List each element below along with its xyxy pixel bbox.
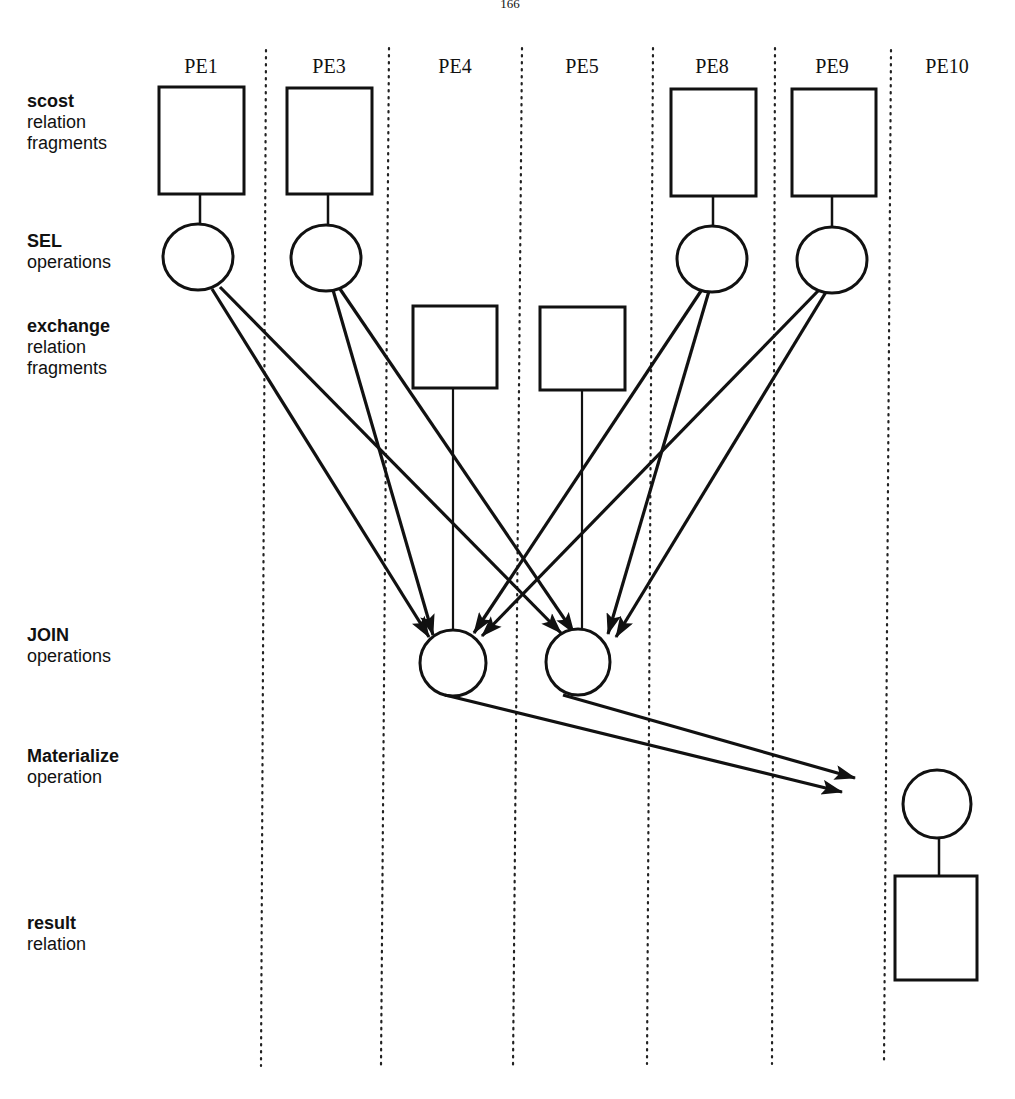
separator-pe1-pe3 xyxy=(261,50,266,1066)
exchange-fragment-pe5 xyxy=(540,307,625,390)
scost-fragment-pe9 xyxy=(792,89,876,196)
column-separators xyxy=(261,48,891,1068)
exchange-fragment-pe4 xyxy=(413,306,497,388)
arrow-join-pe4-to-materialize xyxy=(445,695,842,792)
arrow-sel-pe1-to-join-pe4 xyxy=(212,289,429,637)
separator-pe4-pe5 xyxy=(513,48,522,1068)
separator-pe8-pe9 xyxy=(772,48,775,1064)
arrow-join-pe5-to-materialize xyxy=(563,695,855,778)
sel-op-pe3 xyxy=(291,225,361,291)
separator-pe3-pe4 xyxy=(381,48,389,1066)
arrow-sel-pe9-to-join-pe4 xyxy=(482,291,818,636)
sel-op-pe1 xyxy=(163,224,233,290)
separator-pe5-pe8 xyxy=(647,48,653,1064)
join-to-materialize-arrows xyxy=(445,695,855,792)
separator-pe9-pe10 xyxy=(884,50,891,1064)
join-op-pe5 xyxy=(546,629,610,695)
scost-to-sel-connectors xyxy=(200,194,832,227)
scost-fragment-pe3 xyxy=(287,88,372,194)
scost-fragment-pe8 xyxy=(671,89,756,196)
sel-op-pe8 xyxy=(677,226,747,292)
materialize-op-pe10 xyxy=(903,770,971,838)
scost-fragment-pe1 xyxy=(159,87,244,194)
join-op-pe4 xyxy=(420,630,486,696)
sel-operations xyxy=(163,224,867,293)
join-operations xyxy=(420,629,610,696)
diagram-graphics xyxy=(0,0,1015,1099)
result-relation-pe10 xyxy=(895,876,977,980)
sel-op-pe9 xyxy=(797,227,867,293)
parallel-query-execution-diagram: 166 PE1 PE3 PE4 PE5 PE8 PE9 PE10 scost r… xyxy=(0,0,1015,1099)
